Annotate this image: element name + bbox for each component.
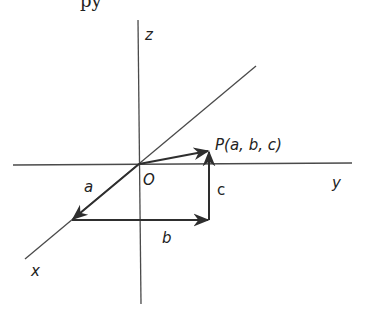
point-p-label: P(a, b, c) xyxy=(215,136,282,154)
origin-label: O xyxy=(143,171,155,189)
z-axis-label: z xyxy=(144,26,154,44)
vector-op xyxy=(139,151,208,164)
component-a-label: a xyxy=(84,178,93,196)
y-axis-label: y xyxy=(331,174,342,192)
component-b-label: b xyxy=(162,229,172,247)
x-axis-label: x xyxy=(30,262,40,280)
component-c-label: c xyxy=(217,181,225,199)
3d-coordinate-diagram: z y x O P(a, b, c) a c b xyxy=(0,0,373,311)
vector-a xyxy=(73,164,139,219)
y-axis xyxy=(13,163,352,165)
